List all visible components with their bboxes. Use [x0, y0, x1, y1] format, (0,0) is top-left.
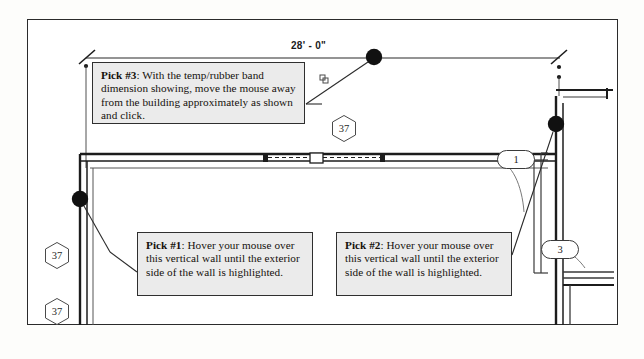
wall-vertical-left[interactable] — [80, 154, 93, 325]
keynote-hex-37-b[interactable]: 37 — [44, 241, 70, 270]
keynote-hex-37-b-value: 37 — [44, 241, 70, 270]
keynote-hex-37-a[interactable]: 37 — [331, 114, 357, 143]
snap-dot-right-wall[interactable] — [548, 116, 564, 132]
keynote-hex-37-a-value: 37 — [331, 114, 357, 143]
leader-pick-1-b — [84, 206, 110, 252]
floor-plan-drawing — [0, 0, 644, 359]
wall-stub-top-right — [556, 88, 613, 99]
detail-bubble-3[interactable]: 3 — [541, 240, 579, 259]
callout-pick-3-label: Pick #3 — [101, 69, 136, 81]
callout-pick-1: Pick #1: Hover your mouse over this vert… — [137, 232, 313, 296]
callout-pick-2: Pick #2: Hover your mouse over this vert… — [336, 232, 512, 296]
leader-pick-1-a — [110, 252, 137, 272]
detail-bubble-1[interactable]: 1 — [497, 150, 535, 169]
keynote-hex-37-c-value: 37 — [44, 297, 70, 326]
leader-pick-3 — [306, 62, 368, 104]
wall-branch-bottom-right — [563, 272, 614, 325]
callout-pick-3: Pick #3: With the temp/rubber band dimen… — [92, 62, 305, 124]
snap-dot-left-wall[interactable] — [72, 191, 88, 207]
dimension-label: 28' - 0" — [291, 40, 326, 51]
callout-pick-2-label: Pick #2 — [345, 239, 380, 251]
keynote-hex-37-c[interactable]: 37 — [44, 297, 70, 326]
callout-pick-1-label: Pick #1 — [146, 239, 181, 251]
dimension-tick-right — [551, 50, 567, 64]
snap-dot-dimension[interactable] — [366, 49, 382, 65]
move-cursor-icon — [320, 75, 328, 83]
